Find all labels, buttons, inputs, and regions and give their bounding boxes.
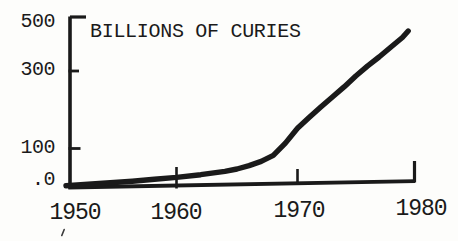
x-tick-label-1980: 1980 [376, 198, 458, 221]
y-tick-label-300: 300 [0, 60, 55, 80]
x-tick-label-1960: 1960 [131, 202, 221, 225]
y-tick-label-500: 500 [0, 12, 55, 32]
x-tick-label-1950: 1950 [30, 202, 120, 225]
stray-ink-mark [62, 230, 64, 236]
radioactive-waste-chart: BILLIONS OF CURIES 500 300 100 .0 1950 1… [0, 0, 458, 241]
x-tick-label-1970: 1970 [254, 200, 344, 223]
chart-title: BILLIONS OF CURIES [90, 21, 301, 43]
y-tick-label-100: 100 [0, 138, 55, 158]
y-tick-label-0: .0 [0, 170, 55, 190]
waste-curve [66, 31, 408, 186]
